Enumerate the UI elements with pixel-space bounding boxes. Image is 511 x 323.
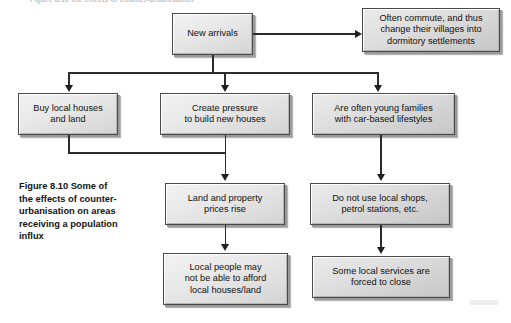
node-buy-local-houses[interactable]: Buy local houses and land xyxy=(18,93,118,135)
node-young-families-label: Are often young families with car-based … xyxy=(334,103,433,126)
arrow-to-create-pressure xyxy=(221,85,229,92)
node-buy-local-houses-label: Buy local houses and land xyxy=(33,103,102,126)
node-cannot-afford[interactable]: Local people may not be able to afford l… xyxy=(163,253,288,305)
edge-buy-local-houses-drop xyxy=(68,135,70,153)
node-young-families[interactable]: Are often young families with car-based … xyxy=(312,93,455,135)
arrow-to-cannot-afford xyxy=(221,244,229,251)
edge-distribution-bar xyxy=(68,72,378,74)
arrow-to-prices-rise xyxy=(221,174,229,181)
node-new-arrivals[interactable]: New arrivals xyxy=(172,13,253,55)
node-do-not-use-shops[interactable]: Do not use local shops, petrol stations,… xyxy=(310,183,450,225)
node-prices-rise-label: Land and property prices rise xyxy=(188,193,263,216)
node-often-commute-label: Often commute, and thus change their vil… xyxy=(379,13,482,47)
edge-create-pressure-to-prices-rise xyxy=(225,135,227,175)
node-cannot-afford-label: Local people may not be able to afford l… xyxy=(185,262,267,296)
figure-caption: Figure 8.10 Some of the effects of count… xyxy=(19,180,143,243)
edge-buy-local-houses-merge xyxy=(68,152,226,154)
edge-new-arrivals-stem xyxy=(212,55,214,73)
node-services-close-label: Some local services are forced to close xyxy=(332,266,430,289)
figure-diagram-page: Figure 8.10 the effects of counter-urban… xyxy=(0,0,511,323)
arrow-to-often-commute xyxy=(355,30,362,38)
arrow-to-buy-local-houses xyxy=(65,85,73,92)
edge-bar-to-create-pressure xyxy=(224,72,226,86)
edge-prices-rise-to-cannot-afford xyxy=(225,225,227,245)
node-create-pressure[interactable]: Create pressure to build new houses xyxy=(160,93,290,135)
node-create-pressure-label: Create pressure to build new houses xyxy=(184,103,265,126)
edge-bar-to-young-families xyxy=(377,72,379,86)
edge-new-arrivals-to-often-commute xyxy=(253,33,355,35)
scan-artefact xyxy=(470,300,498,305)
arrow-to-services-close xyxy=(377,247,385,254)
node-new-arrivals-label: New arrivals xyxy=(187,28,238,39)
edge-do-not-use-shops-to-services-close xyxy=(380,225,382,248)
edge-bar-to-buy-local-houses xyxy=(68,72,70,86)
node-services-close[interactable]: Some local services are forced to close xyxy=(312,256,450,298)
node-prices-rise[interactable]: Land and property prices rise xyxy=(165,183,285,225)
node-do-not-use-shops-label: Do not use local shops, petrol stations,… xyxy=(332,193,428,216)
arrow-to-do-not-use-shops xyxy=(377,174,385,181)
edge-young-families-to-do-not-use-shops xyxy=(380,135,382,175)
arrow-to-young-families xyxy=(374,85,382,92)
cropped-header-text: Figure 8.10 the effects of counter-urban… xyxy=(30,0,330,4)
node-often-commute[interactable]: Often commute, and thus change their vil… xyxy=(362,8,500,52)
